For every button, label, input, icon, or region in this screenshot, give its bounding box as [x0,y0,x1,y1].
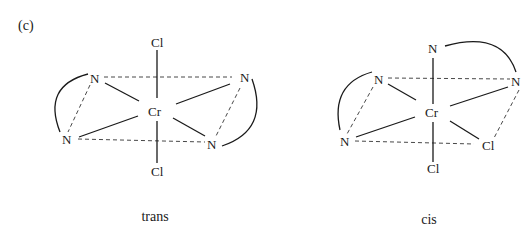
trans-bond-n-lr [173,118,205,136]
trans-bond-n-ul [105,83,139,101]
trans-plane-edge-bottom [78,139,205,142]
cis-chelate-arc-left [338,72,372,130]
cis-atom-n-top: N [428,41,438,56]
trans-atom-cl-top: Cl [151,35,164,50]
trans-isomer: Cl Cr Cl N N N N trans [55,35,257,224]
cis-bond-cl-lr [450,121,479,139]
cis-atom-n-ll: N [340,134,350,149]
trans-caption: trans [141,209,168,224]
trans-chelate-arc-left [55,74,88,132]
cis-chelate-arc-top-right [445,42,516,72]
cis-bond-n-ul [388,84,416,100]
cis-atom-cr: Cr [425,105,439,120]
cis-bond-n-ll [356,117,415,137]
cis-bond-n-right [450,87,508,106]
cis-plane-edge-right [494,90,519,138]
cis-plane-edge-bottom [355,141,474,144]
trans-atom-n-ul: N [90,71,100,86]
panel-label: (c) [18,18,34,34]
trans-atom-cl-bottom: Cl [151,164,164,179]
trans-bond-n-ll [79,116,138,137]
cis-plane-edge-top [388,78,510,79]
cis-isomer: N Cr Cl N N N Cl cis [338,41,521,227]
cis-atom-n-right: N [511,74,521,89]
cis-atom-cl-bottom: Cl [427,161,440,176]
cis-plane-edge-left [347,87,373,134]
trans-plane-edge-right [215,88,240,138]
trans-bond-n-ur [176,84,230,104]
trans-atom-n-ur: N [240,70,250,85]
cis-atom-cl-lr: Cl [482,138,495,153]
cis-caption: cis [421,212,437,227]
isomer-diagram: (c) Cl Cr Cl N N N N trans [0,0,526,228]
trans-atom-n-lr: N [207,137,217,152]
trans-atom-cr: Cr [148,104,162,119]
trans-plane-edge-left [68,85,90,132]
trans-atom-n-ll: N [62,132,72,147]
cis-atom-n-ul: N [374,72,384,87]
